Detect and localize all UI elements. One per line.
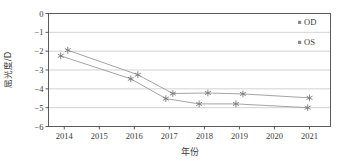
y-tick-label: −4: [34, 84, 44, 94]
x-tick-label: 2017: [161, 131, 178, 141]
legend-swatch: [298, 21, 301, 24]
refraction-line-chart: 0−1−2−3−4−5−6 20142015201620172018201920…: [0, 0, 340, 161]
y-axis-title: 屈光度/D: [3, 51, 13, 88]
chart-canvas: 0−1−2−3−4−5−6 20142015201620172018201920…: [0, 0, 340, 161]
x-tick-label: 2020: [266, 131, 283, 141]
y-tick-label: −6: [34, 122, 43, 132]
y-tick-label: −3: [34, 65, 43, 75]
x-tick-label: 2014: [56, 131, 74, 141]
x-tick-label: 2016: [126, 131, 143, 141]
y-tick-label: −2: [34, 46, 43, 56]
x-tick-label: 2019: [231, 131, 248, 141]
y-tick-label: 0: [39, 9, 43, 19]
legend-swatch: [298, 41, 301, 44]
x-tick-label: 2018: [196, 131, 213, 141]
legend-label: OS: [304, 37, 315, 47]
x-axis-title: 年份: [181, 146, 199, 157]
x-tick-label: 2021: [301, 131, 318, 141]
y-tick-label: −5: [34, 103, 43, 113]
x-tick-label: 2015: [91, 131, 108, 141]
legend-label: OD: [304, 17, 316, 27]
y-tick-label: −1: [34, 27, 43, 37]
